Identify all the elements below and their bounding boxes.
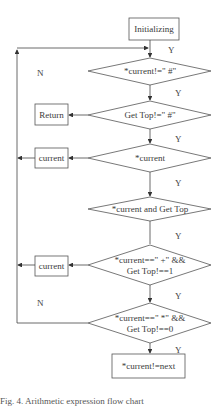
- edge-label-n1: N: [37, 68, 44, 78]
- edge-label-y3: Y: [175, 134, 182, 144]
- return-label: Return: [35, 110, 68, 120]
- edge-label-y4: Y: [175, 178, 182, 188]
- edge-label-y5: Y: [175, 231, 182, 241]
- decision-4-label: *current and Get Top: [95, 204, 205, 214]
- decision-6-label-1: *current==" *" &&: [100, 313, 200, 323]
- edge-label-y1: Y: [168, 45, 175, 55]
- decision-2-label: Get Top!=" #": [100, 110, 200, 120]
- figure-caption: Fig. 4. Arithmetic expression flow chart: [0, 396, 222, 406]
- decision-5: [88, 245, 211, 285]
- edge-label-y6: Y: [175, 291, 182, 301]
- start-label: Initializing: [129, 24, 179, 34]
- edge-label-y2: Y: [175, 88, 182, 98]
- decision-3-label: *current: [100, 153, 200, 163]
- decision-5-label-1: *current==" +" &&: [100, 255, 200, 265]
- current-2-label: current: [35, 261, 68, 271]
- decision-6: [88, 303, 211, 343]
- current-1-label: current: [35, 153, 68, 163]
- decision-1-label: *current!=" #": [100, 66, 200, 76]
- decision-6-label-2: Get Top!==0: [100, 324, 200, 334]
- end-label: *current!=next: [112, 361, 185, 371]
- edge-label-y7: Y: [175, 345, 182, 355]
- edge-label-n2: N: [37, 298, 44, 308]
- decision-5-label-2: Get Top!==1: [100, 266, 200, 276]
